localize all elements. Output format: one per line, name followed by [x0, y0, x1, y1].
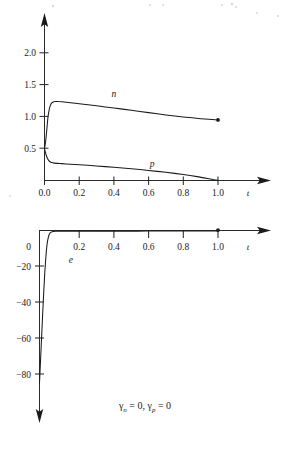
- top-y-tick-label-2.0: 2.0: [24, 48, 36, 58]
- top-chart: 2.0 1.5 1.0 0.5 0.0 0.2 0.4 0.6 0.8 1.0 …: [0, 0, 291, 222]
- figure-caption: γn = 0, γp = 0: [118, 400, 171, 414]
- bottom-y-tick-labels: 0 −20 −40 −60 −80: [16, 242, 31, 380]
- top-y-axis: [41, 13, 48, 180]
- bottom-y-tick-label-minus80: −80: [16, 370, 31, 380]
- top-x-tick-label-0.6: 0.6: [143, 188, 155, 198]
- curve-n: [45, 101, 219, 148]
- bottom-x-tick-label-1.0: 1.0: [212, 242, 224, 252]
- bottom-x-tick-label-0.2: 0.2: [73, 242, 85, 252]
- curve-p: [45, 149, 219, 181]
- curve-endpoint-markers: [216, 228, 220, 232]
- top-y-tick-label-1.0: 1.0: [24, 112, 36, 122]
- bottom-chart: 0 −20 −40 −60 −80 0.2 0.4 0.6 0.8 1.0 t: [0, 222, 291, 454]
- top-x-tick-label-0.8: 0.8: [177, 188, 189, 198]
- top-y-tick-label-0.5: 0.5: [24, 144, 36, 154]
- top-x-axis-label: t: [247, 188, 250, 198]
- top-y-tick-label-1.5: 1.5: [24, 80, 36, 90]
- bottom-x-axis-label: t: [247, 242, 250, 252]
- endpoint-dot-e: [216, 228, 220, 232]
- top-x-tick-label-0.4: 0.4: [108, 188, 120, 198]
- bottom-y-tick-label-0: 0: [26, 242, 31, 252]
- endpoint-dot-n: [216, 118, 220, 122]
- svg-text:γn = 0, γp = 0: γn = 0, γp = 0: [118, 400, 171, 414]
- top-y-tick-labels: 2.0 1.5 1.0 0.5: [24, 48, 36, 153]
- top-x-axis: [45, 177, 272, 184]
- bottom-x-tick-label-0.8: 0.8: [177, 242, 189, 252]
- caption-eq-2: = 0: [155, 400, 171, 411]
- bottom-x-tick-label-0.6: 0.6: [143, 242, 155, 252]
- curve-label-n: n: [112, 89, 117, 99]
- top-x-tick-label-0.2: 0.2: [73, 188, 85, 198]
- bottom-y-tick-label-minus40: −40: [16, 298, 31, 308]
- bottom-x-axis: [40, 227, 272, 234]
- bottom-y-tick-label-minus20: −20: [16, 262, 31, 272]
- bottom-y-tick-label-minus60: −60: [16, 334, 31, 344]
- top-x-tick-label-0.0: 0.0: [39, 188, 51, 198]
- top-x-tick-labels: 0.0 0.2 0.4 0.6 0.8 1.0: [39, 188, 225, 198]
- top-x-tick-label-1.0: 1.0: [212, 188, 224, 198]
- bottom-curves: [40, 228, 220, 383]
- scan-artifacts: [9, 3, 279, 197]
- figure-container: 2.0 1.5 1.0 0.5 0.0 0.2 0.4 0.6 0.8 1.0 …: [0, 0, 291, 454]
- curve-label-p: p: [149, 159, 155, 169]
- top-curves: [45, 101, 220, 180]
- curve-endpoint-markers: [216, 118, 220, 122]
- caption-eq-1: = 0,: [127, 400, 148, 411]
- curve-label-e: e: [69, 255, 73, 265]
- curve-e: [40, 231, 219, 383]
- bottom-x-tick-label-0.4: 0.4: [108, 242, 120, 252]
- bottom-x-tick-labels: 0.2 0.4 0.6 0.8 1.0: [73, 242, 224, 252]
